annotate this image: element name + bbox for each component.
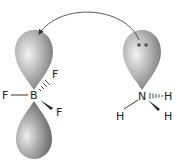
- atom-f-lower-right: F: [56, 106, 62, 119]
- b-f-hashed-bond: [39, 80, 50, 91]
- n-h-hashed-bond: [150, 93, 162, 99]
- atom-h-lower-right: H: [164, 110, 172, 123]
- atom-h-right: H: [164, 90, 172, 103]
- curved-arrow: [39, 12, 139, 40]
- lone-pair-dot: [137, 43, 141, 47]
- b-f-wedge-bond: [40, 100, 53, 110]
- lewis-acid-base-diagram: B F F F N H H H: [0, 0, 180, 165]
- atom-h-lower-left: H: [116, 110, 124, 123]
- n-h-wedge-bond: [148, 100, 160, 111]
- atom-n: N: [138, 90, 146, 103]
- atom-f-upper-right: F: [52, 68, 58, 81]
- bf3-lower-lobe: [16, 101, 52, 159]
- nh3-lone-pair-lobe: [123, 30, 161, 90]
- atom-b: B: [30, 89, 38, 102]
- bf3-upper-lobe: [15, 30, 53, 90]
- lone-pair-dot: [144, 43, 148, 47]
- atom-f-left: F: [2, 89, 8, 102]
- n-h-lower-left-bond: [124, 100, 138, 109]
